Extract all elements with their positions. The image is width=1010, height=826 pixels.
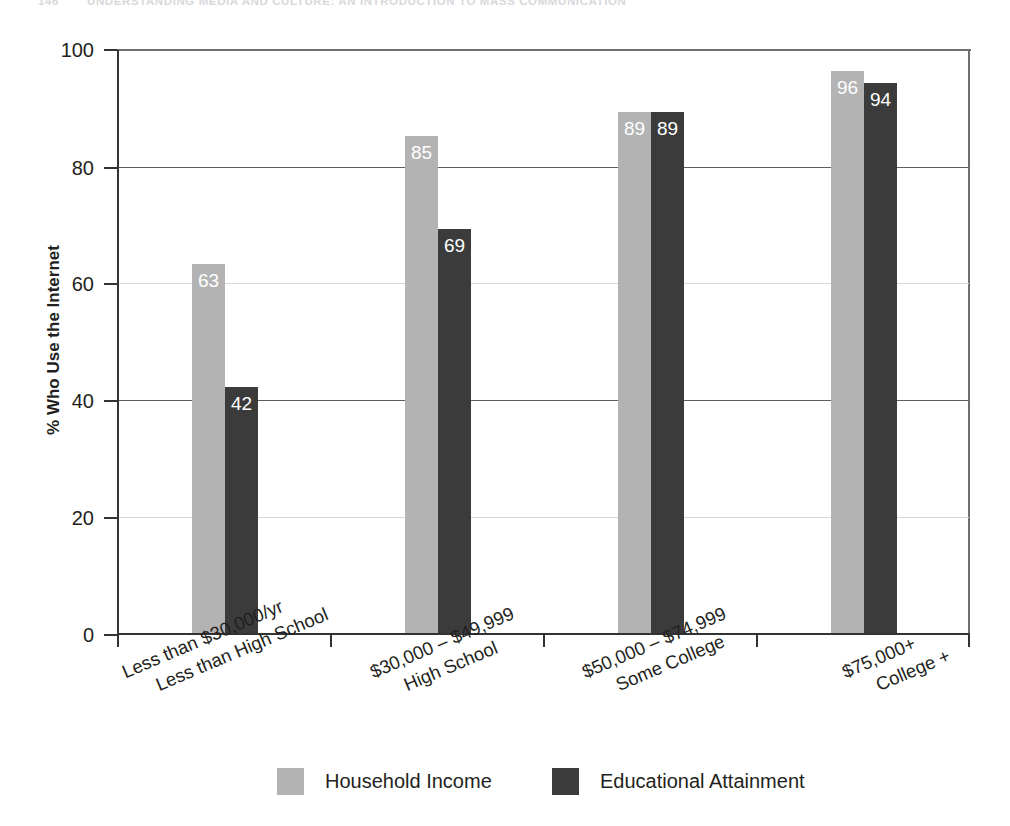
- ytick-label-100: 100: [30, 39, 94, 62]
- bar-value-educational-attainment-1: 42: [225, 393, 258, 415]
- xtick-mark-1: [330, 635, 332, 647]
- xtick-mark-4: [968, 635, 970, 647]
- bar-educational-attainment-4: 94: [864, 83, 897, 633]
- bar-household-income-1: 63: [192, 264, 225, 633]
- bar-educational-attainment-3: 89: [651, 112, 684, 633]
- ytick-label-20: 20: [30, 506, 94, 529]
- xtick-mark-3: [756, 635, 758, 647]
- xtick-mark-0: [117, 635, 119, 647]
- bar-household-income-2: 85: [405, 136, 438, 633]
- bar-household-income-4: 96: [831, 71, 864, 633]
- chart-legend: Household Income Educational Attainment: [0, 768, 1010, 808]
- ytick-mark-20: [104, 517, 117, 519]
- ytick-mark-0: [104, 634, 117, 636]
- bar-household-income-3: 89: [618, 112, 651, 633]
- bar-chart-figure: 100 80 60 40 20 0 % Who Use the Internet…: [0, 0, 1010, 826]
- bar-value-educational-attainment-2: 69: [438, 235, 471, 257]
- xtick-mark-2: [543, 635, 545, 647]
- bar-value-household-income-3: 89: [618, 118, 651, 140]
- ytick-label-80: 80: [30, 156, 94, 179]
- legend-label-educational-attainment: Educational Attainment: [600, 770, 805, 793]
- y-axis-title: % Who Use the Internet: [44, 200, 64, 480]
- bar-educational-attainment-1: 42: [225, 387, 258, 633]
- bar-value-household-income-2: 85: [405, 142, 438, 164]
- bar-value-household-income-1: 63: [192, 270, 225, 292]
- legend-swatch-household-income: [277, 768, 304, 795]
- bar-value-household-income-4: 96: [831, 77, 864, 99]
- ytick-label-0: 0: [30, 624, 94, 647]
- bar-value-educational-attainment-3: 89: [651, 118, 684, 140]
- plot-area: 63 42 85 69 89 89 96 94: [117, 50, 970, 635]
- ytick-mark-100: [104, 49, 117, 51]
- legend-swatch-educational-attainment: [552, 768, 579, 795]
- legend-item-educational-attainment: Educational Attainment: [552, 768, 805, 795]
- ytick-mark-80: [104, 167, 117, 169]
- legend-label-household-income: Household Income: [325, 770, 492, 793]
- ytick-mark-40: [104, 400, 117, 402]
- bar-value-educational-attainment-4: 94: [864, 89, 897, 111]
- legend-item-household-income: Household Income: [277, 768, 492, 795]
- ytick-mark-60: [104, 283, 117, 285]
- bar-educational-attainment-2: 69: [438, 229, 471, 633]
